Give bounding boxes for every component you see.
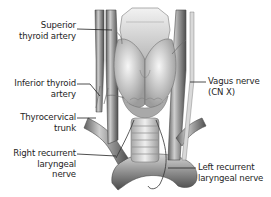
label-line: laryngeal <box>0 159 76 170</box>
label-line: (CN X) <box>208 87 270 98</box>
trachea <box>131 118 159 162</box>
label-line: Vagus nerve <box>208 76 270 87</box>
label-inferior-thyroid-artery: Inferior thyroid artery <box>0 78 76 99</box>
label-line: Superior <box>6 20 76 31</box>
label-line: thyroid artery <box>6 31 76 42</box>
label-line: Thyrocervical <box>0 112 76 123</box>
label-line: Left recurrent <box>198 162 271 173</box>
label-superior-thyroid-artery: Superior thyroid artery <box>6 20 76 41</box>
label-line: trunk <box>0 123 76 134</box>
label-line: nerve <box>0 169 76 180</box>
label-line: Inferior thyroid <box>0 78 76 89</box>
label-left-recurrent-laryngeal-nerve: Left recurrent laryngeal nerve <box>198 162 271 183</box>
label-line: artery <box>0 89 76 100</box>
label-line: laryngeal nerve <box>198 173 271 184</box>
left-great-vessels <box>168 10 206 160</box>
label-right-recurrent-laryngeal-nerve: Right recurrent laryngeal nerve <box>0 148 76 180</box>
leader-right-recurrent-laryngeal-nerve <box>77 154 116 156</box>
label-line: Right recurrent <box>0 148 76 159</box>
label-vagus-nerve: Vagus nerve (CN X) <box>208 76 270 97</box>
anatomy-figure: Superior thyroid artery Inferior thyroid… <box>0 0 271 197</box>
label-thyrocervical-trunk: Thyrocervical trunk <box>0 112 76 133</box>
